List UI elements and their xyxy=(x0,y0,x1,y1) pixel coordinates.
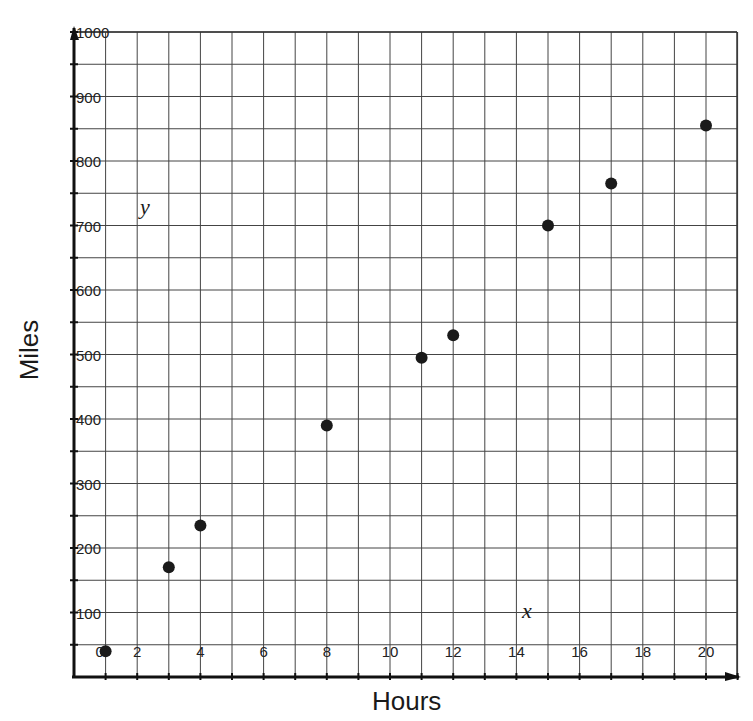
axes xyxy=(70,26,741,681)
scatter-chart: 1002003004005006007008009001000 02468101… xyxy=(0,0,753,721)
svg-text:18: 18 xyxy=(634,643,651,660)
svg-text:10: 10 xyxy=(382,643,399,660)
svg-text:4: 4 xyxy=(196,643,204,660)
svg-text:700: 700 xyxy=(76,218,101,235)
svg-text:12: 12 xyxy=(445,643,462,660)
svg-text:500: 500 xyxy=(76,347,101,364)
svg-text:2: 2 xyxy=(133,643,141,660)
svg-text:16: 16 xyxy=(571,643,588,660)
x-axis-label: Hours xyxy=(372,686,441,717)
svg-text:400: 400 xyxy=(76,411,101,428)
y-axis-label: Miles xyxy=(14,320,45,381)
svg-text:600: 600 xyxy=(76,282,101,299)
y-variable-annotation: y xyxy=(140,194,150,220)
svg-text:200: 200 xyxy=(76,540,101,557)
svg-text:900: 900 xyxy=(76,89,101,106)
svg-text:6: 6 xyxy=(259,643,267,660)
svg-text:20: 20 xyxy=(698,643,715,660)
data-points xyxy=(100,120,712,658)
svg-text:14: 14 xyxy=(508,643,525,660)
svg-text:800: 800 xyxy=(76,153,101,170)
x-variable-annotation: x xyxy=(522,598,532,624)
svg-text:8: 8 xyxy=(323,643,331,660)
svg-text:100: 100 xyxy=(76,605,101,622)
grid xyxy=(74,32,738,677)
x-tick-labels: 02468101214161820 xyxy=(95,643,714,660)
svg-text:1000: 1000 xyxy=(76,24,109,41)
svg-text:300: 300 xyxy=(76,476,101,493)
